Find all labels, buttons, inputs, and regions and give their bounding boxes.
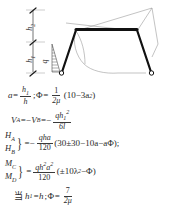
eq4-lhs-bottom: MD	[5, 171, 16, 184]
eq3-lhs-top: HA	[5, 130, 15, 143]
eq4-expression-tail: −Φ)	[81, 167, 96, 176]
equation-horizontal-reactions: HA HB } =− qha 120 (30±30−10a−aΦ);	[0, 130, 170, 156]
frame-diagram-svg	[0, 0, 170, 84]
eq3-lhs-bottom: HB	[5, 143, 15, 156]
load-label-q: q	[40, 60, 49, 64]
distributed-load-q	[52, 44, 60, 72]
moment-overlay-upper	[76, 8, 152, 31]
dimension-label-h1: h1	[25, 56, 36, 63]
eq4-brace: }	[19, 165, 24, 177]
eq4-equals: =	[26, 167, 32, 176]
moment-overlay-left-bulge	[74, 31, 146, 73]
eq1-fraction-one-over-2mu: 1 2μ	[50, 87, 62, 105]
equation-corner-moments: MC MD } = qh2a2 120 (±10λ2−Φ)	[0, 158, 170, 184]
equation-special-case: 当 h1 =h ; Φ = 7 2μ	[0, 187, 170, 205]
eq3-fraction: qha 120	[37, 134, 53, 152]
eq1-bracket-close: )	[92, 91, 95, 100]
eq5-condition-equals: =h	[33, 192, 45, 201]
moment-diagram-overlay	[66, 8, 158, 73]
eq1-phi-symbol: Φ	[36, 91, 43, 100]
moment-overlay-right	[152, 8, 158, 57]
frame-members	[62, 30, 151, 73]
dimension-lines	[26, 10, 45, 73]
eq2-equals-2: =−	[41, 116, 52, 125]
support-pin-left	[59, 71, 63, 75]
dimension-label-h2: h2	[25, 24, 36, 31]
frame-figure-panel: h2 h1 q	[0, 0, 170, 84]
eq5-condition-word: 当	[14, 192, 25, 201]
eq2-fraction: qh12 6l	[53, 109, 71, 131]
eq3-equals: =−	[24, 139, 35, 148]
eq1-equals-2: =	[43, 91, 49, 100]
eq1-fraction-h1-h: h1 h	[20, 86, 31, 106]
eq5-phi-symbol: Φ	[48, 192, 55, 201]
eq1-equals: =	[13, 91, 19, 100]
eq1-bracket-expression: (10−3a	[64, 91, 90, 100]
eq4-lhs-pair: MC MD }	[5, 158, 25, 184]
eq3-brace: }	[17, 137, 22, 149]
eq5-equals: =	[54, 192, 60, 201]
eq2-equals: =−	[20, 116, 31, 125]
eq4-lhs-top: MC	[5, 158, 16, 171]
frame-left-leg	[62, 30, 76, 72]
moment-overlay-left-inner	[76, 31, 85, 64]
eq3-lhs-pair: HA HB }	[5, 130, 23, 156]
eq4-fraction: qh2a2 120	[33, 161, 55, 182]
equation-alpha-phi: a = h1 h ; Φ = 1 2μ (10−3a2)	[0, 86, 170, 106]
support-pin-right	[149, 71, 153, 75]
frame-right-leg	[137, 30, 151, 72]
equation-vertical-reactions: VA =− VB =− qh12 6l	[0, 109, 170, 131]
eq4-expression: (±10λ	[57, 167, 78, 176]
formula-block: a = h1 h ; Φ = 1 2μ (10−3a2) VA =− VB =−…	[0, 84, 170, 221]
eq5-fraction: 7 2μ	[62, 187, 74, 205]
eq3-expression: (30±30−10a−aΦ);	[54, 139, 119, 148]
